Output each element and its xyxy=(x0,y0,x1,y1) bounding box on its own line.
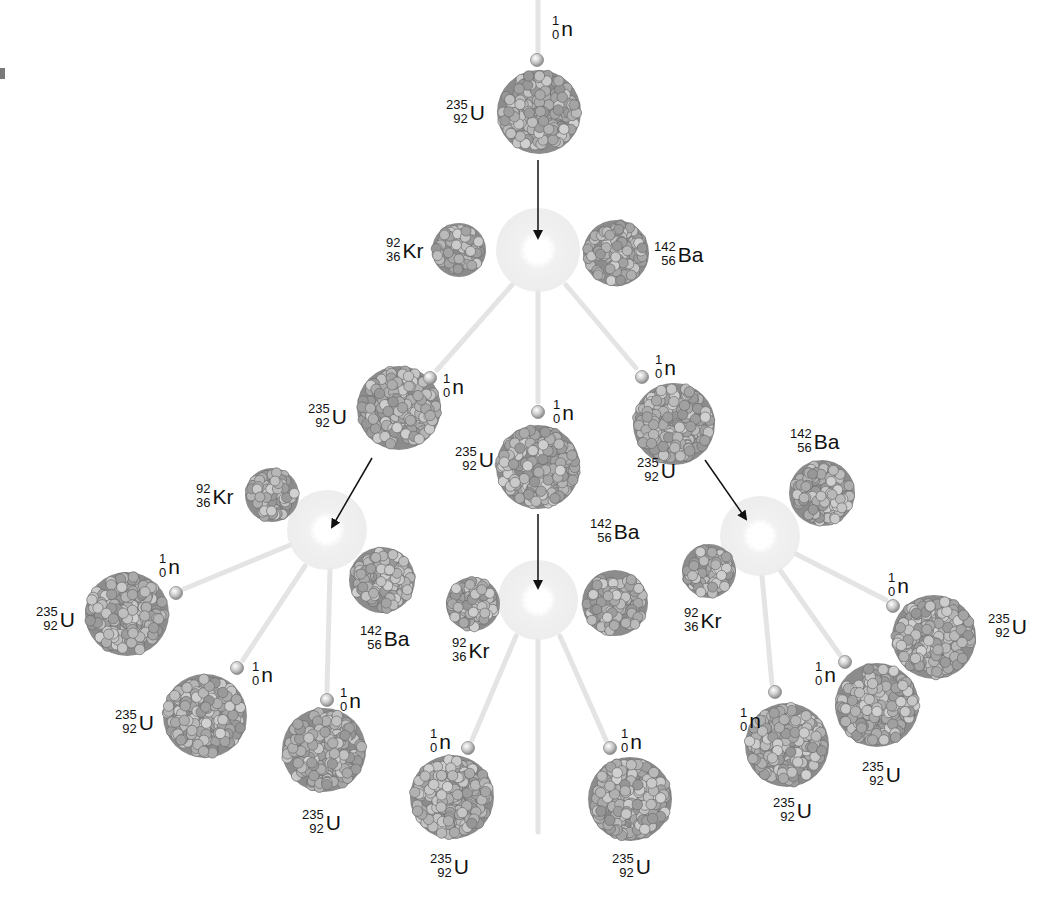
u-nucleus xyxy=(891,595,976,680)
neutron-trail xyxy=(437,285,512,370)
atomic-number: 0 xyxy=(655,367,662,381)
neutrons xyxy=(170,54,900,755)
nuclide-numbers: 23592 xyxy=(446,98,468,126)
element-symbol: Ba xyxy=(614,521,640,542)
atomic-number: 92 xyxy=(988,626,1010,640)
neutron xyxy=(531,54,544,67)
isotope-label-u: 23592U xyxy=(308,402,347,430)
kr-nucleus xyxy=(446,577,500,632)
isotope-label-u: 23592U xyxy=(988,612,1027,640)
atomic-number: 0 xyxy=(553,412,560,426)
isotope-label-n: 10n xyxy=(340,686,361,714)
element-symbol: U xyxy=(636,856,651,877)
mass-number: 235 xyxy=(612,852,634,866)
isotope-label-u: 23592U xyxy=(430,852,469,880)
ba-nucleus xyxy=(349,547,415,614)
atomic-number: 56 xyxy=(590,531,612,545)
neutron-trail xyxy=(243,566,305,660)
nuclide-numbers: 23592 xyxy=(115,708,137,736)
isotope-label-kr: 9236Kr xyxy=(196,482,233,510)
atomic-number: 0 xyxy=(443,386,450,400)
nuclide-numbers: 14256 xyxy=(654,240,676,268)
element-symbol: n xyxy=(562,402,574,423)
nuclide-numbers: 23592 xyxy=(308,402,330,430)
element-symbol: n xyxy=(439,731,451,752)
nuclide-numbers: 23592 xyxy=(862,760,884,788)
nuclide-numbers: 10 xyxy=(553,398,560,426)
u-nucleus xyxy=(162,674,247,758)
isotope-label-ba: 14256Ba xyxy=(360,624,409,652)
isotope-label-n: 10n xyxy=(252,660,273,688)
element-symbol: n xyxy=(349,690,361,711)
mass-number: 235 xyxy=(302,808,324,822)
element-symbol: U xyxy=(886,764,901,785)
ba-nucleus xyxy=(789,460,855,526)
element-symbol: Kr xyxy=(402,240,423,261)
u-nucleus xyxy=(410,755,494,840)
neutron xyxy=(636,371,649,384)
mass-number: 1 xyxy=(815,660,822,674)
mass-number: 92 xyxy=(196,482,210,496)
nuclide-numbers: 10 xyxy=(740,706,747,734)
element-symbol: U xyxy=(332,406,347,427)
neutron xyxy=(462,742,475,755)
mass-number: 1 xyxy=(252,660,259,674)
isotope-label-ba: 14256Ba xyxy=(654,240,703,268)
atomic-number: 92 xyxy=(36,619,58,633)
neutron-trail xyxy=(566,285,636,368)
nuclide-numbers: 23592 xyxy=(430,852,452,880)
isotope-label-kr: 9236Kr xyxy=(684,606,721,634)
atomic-number: 0 xyxy=(740,720,747,734)
element-symbol: Ba xyxy=(814,431,840,452)
kr-nucleus xyxy=(245,468,299,522)
nuclide-numbers: 10 xyxy=(815,660,822,688)
mass-number: 142 xyxy=(590,517,612,531)
atomic-number: 92 xyxy=(612,866,634,880)
element-symbol: n xyxy=(452,376,464,397)
isotope-label-u: 23592U xyxy=(637,456,676,484)
atomic-number: 56 xyxy=(790,441,812,455)
nuclide-numbers: 9236 xyxy=(684,606,698,634)
nuclide-numbers: 9236 xyxy=(452,636,466,664)
ba-nucleus xyxy=(583,220,649,286)
kr-nucleus xyxy=(431,223,486,277)
mass-number: 1 xyxy=(552,14,559,28)
nuclide-numbers: 23592 xyxy=(455,445,477,473)
atomic-number: 92 xyxy=(862,774,884,788)
isotope-label-n: 10n xyxy=(655,353,676,381)
nuclide-numbers: 10 xyxy=(443,372,450,400)
atomic-number: 0 xyxy=(552,28,559,42)
mass-number: 142 xyxy=(654,240,676,254)
mass-number: 235 xyxy=(115,708,137,722)
isotope-label-u: 23592U xyxy=(862,760,901,788)
nuclide-numbers: 10 xyxy=(159,552,166,580)
nuclide-numbers: 10 xyxy=(552,14,559,42)
mass-number: 1 xyxy=(443,372,450,386)
u-nucleus xyxy=(633,383,715,465)
isotope-label-u: 23592U xyxy=(455,445,494,473)
nuclide-numbers: 10 xyxy=(655,353,662,381)
atomic-number: 92 xyxy=(430,866,452,880)
element-symbol: U xyxy=(326,812,341,833)
nuclide-numbers: 14256 xyxy=(590,517,612,545)
isotope-label-n: 10n xyxy=(443,372,464,400)
mass-number: 235 xyxy=(862,760,884,774)
isotope-label-ba: 14256Ba xyxy=(790,427,839,455)
isotope-label-n: 10n xyxy=(740,706,761,734)
atomic-number: 92 xyxy=(455,459,477,473)
mass-number: 235 xyxy=(36,605,58,619)
nuclide-numbers: 14256 xyxy=(360,624,382,652)
element-symbol: U xyxy=(797,800,812,821)
u-nucleus xyxy=(835,663,920,747)
nuclide-numbers: 10 xyxy=(252,660,259,688)
neutron xyxy=(231,662,244,675)
mass-number: 1 xyxy=(740,706,747,720)
mass-number: 235 xyxy=(430,852,452,866)
neutron xyxy=(604,742,617,755)
mass-number: 1 xyxy=(159,552,166,566)
mass-number: 1 xyxy=(553,398,560,412)
nuclide-numbers: 23592 xyxy=(773,796,795,824)
u-nucleus xyxy=(85,572,169,656)
nuclide-numbers: 9236 xyxy=(196,482,210,510)
mass-number: 1 xyxy=(888,571,895,585)
